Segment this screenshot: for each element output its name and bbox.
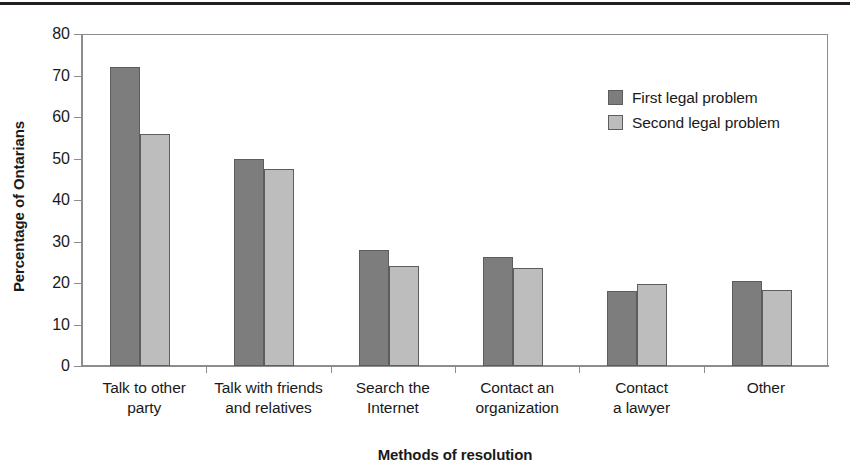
- bar-group: [331, 34, 455, 366]
- bar: [264, 169, 294, 366]
- bar: [234, 159, 264, 366]
- x-axis-title: Methods of resolution: [82, 446, 828, 463]
- y-axis-tick-label: 40: [10, 192, 70, 208]
- bar-group: [704, 34, 828, 366]
- y-axis-tick-mark: [74, 283, 82, 284]
- bar: [110, 67, 140, 366]
- y-axis-tick-mark: [74, 34, 82, 35]
- legend-swatch-icon: [608, 115, 623, 130]
- x-axis-tick-mark: [331, 366, 332, 373]
- y-axis-tick-labels: 80706050403020100: [8, 0, 70, 474]
- legend-swatch-icon: [608, 90, 623, 105]
- x-axis-tick-mark: [206, 366, 207, 373]
- y-axis-tick-mark: [74, 242, 82, 243]
- y-axis-tick-label: 60: [10, 109, 70, 125]
- y-axis-tick-label: 50: [10, 151, 70, 167]
- legend-label: First legal problem: [632, 89, 758, 107]
- bar-chart-figure: Percentage of Ontarians 8070605040302010…: [0, 0, 850, 474]
- bars-layer: [82, 34, 828, 366]
- x-axis-category-label: Talk to otherparty: [82, 378, 206, 418]
- bar-group: [455, 34, 579, 366]
- bar: [359, 250, 389, 366]
- x-axis-category-labels: Talk to otherpartyTalk with friendsand r…: [82, 378, 828, 432]
- y-axis-tick-label: 30: [10, 234, 70, 250]
- y-axis-tick-label: 20: [10, 275, 70, 291]
- bar: [607, 291, 637, 366]
- y-axis-tick-mark: [74, 117, 82, 118]
- y-axis-tick-mark: [74, 76, 82, 77]
- legend-label: Second legal problem: [632, 114, 780, 132]
- x-axis-tick-mark: [579, 366, 580, 373]
- bar: [762, 290, 792, 366]
- x-axis-category-label: Contact anorganization: [455, 378, 579, 418]
- x-axis-tick-mark: [704, 366, 705, 373]
- y-axis-tick-mark: [74, 200, 82, 201]
- x-axis-category-label: Contacta lawyer: [579, 378, 703, 418]
- category-label-line: and relatives: [206, 398, 330, 418]
- y-axis-tick-label: 70: [10, 68, 70, 84]
- y-axis-tick-label: 10: [10, 317, 70, 333]
- y-axis-tick-mark: [74, 159, 82, 160]
- y-axis-tick-label: 80: [10, 26, 70, 42]
- x-axis-category-label: Other: [704, 378, 828, 398]
- bar: [732, 281, 762, 366]
- bar: [140, 134, 170, 366]
- bar: [389, 266, 419, 366]
- category-label-line: organization: [455, 398, 579, 418]
- chart-legend: First legal problem Second legal problem: [608, 85, 780, 135]
- category-label-line: Talk with friends: [206, 378, 330, 398]
- y-axis-tick-mark: [74, 366, 82, 367]
- bar: [637, 284, 667, 366]
- category-label-line: Search the: [331, 378, 455, 398]
- bar-group: [206, 34, 330, 366]
- legend-entry: First legal problem: [608, 85, 780, 110]
- category-label-line: Other: [704, 378, 828, 398]
- legend-entry: Second legal problem: [608, 110, 780, 135]
- category-label-line: Contact an: [455, 378, 579, 398]
- y-axis-tick-mark: [74, 325, 82, 326]
- x-axis-category-label: Search theInternet: [331, 378, 455, 418]
- bar: [483, 257, 513, 366]
- category-label-line: party: [82, 398, 206, 418]
- category-label-line: Contact: [579, 378, 703, 398]
- y-axis-tick-label: 0: [10, 358, 70, 374]
- category-label-line: Talk to other: [82, 378, 206, 398]
- top-horizontal-rule: [0, 2, 850, 5]
- bar: [513, 268, 543, 366]
- bar-group: [579, 34, 703, 366]
- category-label-line: Internet: [331, 398, 455, 418]
- category-label-line: a lawyer: [579, 398, 703, 418]
- x-axis-tick-mark: [455, 366, 456, 373]
- bar-group: [82, 34, 206, 366]
- x-axis-category-label: Talk with friendsand relatives: [206, 378, 330, 418]
